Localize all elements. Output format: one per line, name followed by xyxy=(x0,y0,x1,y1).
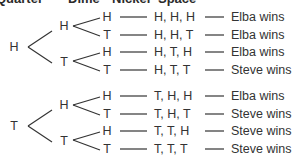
level2-node: T xyxy=(58,55,70,69)
branch-line xyxy=(73,140,100,150)
level3-node: T xyxy=(101,142,113,156)
root-node-tails: T xyxy=(8,119,20,133)
level3-node: H xyxy=(101,10,113,24)
branch-line xyxy=(73,61,100,71)
outcome-sequence: T, H, T xyxy=(154,107,191,121)
branch-line xyxy=(73,26,100,36)
outcome-sequence: H, H, T xyxy=(154,28,193,42)
outcome-sequence: H, T, H xyxy=(154,45,192,59)
level2-node: H xyxy=(58,98,70,112)
branch-line xyxy=(73,132,100,140)
outcome-sequence: H, H, H xyxy=(154,10,195,24)
branch-line xyxy=(73,18,100,26)
outcome-result: Elba wins xyxy=(231,10,285,24)
branch-line xyxy=(28,126,52,142)
branch-line xyxy=(28,110,52,126)
outcome-result: Steve wins xyxy=(231,63,291,77)
outcome-sequence: T, H, H xyxy=(154,89,192,103)
probability-tree-diagram: Quarter Dime Nickel Space xyxy=(0,0,299,160)
level2-node: T xyxy=(58,134,70,148)
outcome-result: Elba wins xyxy=(231,89,285,103)
outcome-sequence: T, T, H xyxy=(154,124,189,138)
outcome-sequence: H, T, T xyxy=(154,63,190,77)
outcome-result: Elba wins xyxy=(231,45,285,59)
outcome-result: Elba wins xyxy=(231,28,285,42)
outcome-result: Steve wins xyxy=(231,107,291,121)
level3-node: T xyxy=(101,28,113,42)
branch-line xyxy=(73,105,100,115)
level3-node: T xyxy=(101,63,113,77)
branch-line xyxy=(73,97,100,105)
level3-node: H xyxy=(101,124,113,138)
branch-line xyxy=(28,47,52,63)
root-node-heads: H xyxy=(8,40,20,54)
outcome-result: Steve wins xyxy=(231,142,291,156)
outcome-result: Steve wins xyxy=(231,124,291,138)
outcome-sequence: T, T, T xyxy=(154,142,188,156)
level3-node: H xyxy=(101,45,113,59)
level3-node: T xyxy=(101,107,113,121)
branch-line xyxy=(73,53,100,61)
level3-node: H xyxy=(101,89,113,103)
level2-node: H xyxy=(58,19,70,33)
branch-line xyxy=(28,31,52,47)
